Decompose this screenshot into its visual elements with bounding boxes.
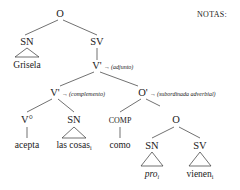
node-comp: COMP [109,117,132,125]
annotation-adjunto: →(adjunto) [104,64,133,70]
annotation-text: (subordinada adverbial) [157,91,216,97]
word-las-cosas: las cosasi [56,141,91,151]
node-subject-sn: SN [20,37,33,48]
node-object-sn: SN [67,115,80,126]
word-grisela: Grisela [13,61,40,71]
node-embedded-sv: SV [193,141,206,152]
index-subscript: i [90,145,92,151]
word-acepta: acepta [15,141,39,151]
node-vbar-top: V' [92,61,101,72]
node-sv: SV [90,37,103,48]
word-text: vienen [187,169,212,179]
index-subscript: i [158,174,160,180]
annotation-text: (adjunto) [111,64,133,70]
word-vienen: vieneni [187,170,214,180]
notes-heading: NOTAS: [197,10,227,19]
word-text: pro [145,169,158,179]
node-embedded-sn: SN [145,141,158,152]
word-text: las cosas [56,140,90,150]
arrow-icon: → [104,64,110,70]
annotation-text: (complemento) [69,91,105,97]
node-embedded-o: O [172,115,180,126]
node-root-o: O [56,9,64,20]
arrow-icon: → [62,91,68,97]
annotation-subordinada: →(subordinada adverbial) [150,91,216,97]
word-pro: proi [145,170,160,180]
annotation-complemento: →(complemento) [62,91,105,97]
node-verb: V° [21,115,33,126]
node-vbar-inner: V' [50,88,59,99]
arrow-icon: → [150,91,156,97]
node-obar: O' [138,88,147,99]
word-como: como [109,141,130,151]
index-subscript: i [212,174,214,180]
